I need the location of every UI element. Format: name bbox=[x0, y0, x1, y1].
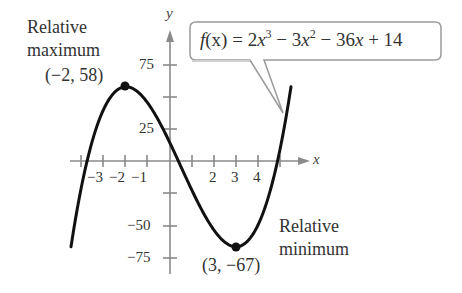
relative-minimum-point bbox=[232, 243, 241, 252]
y-tick-label: 75 bbox=[139, 56, 154, 73]
y-tick-label: 25 bbox=[139, 120, 154, 137]
eq-part: − 36 bbox=[316, 29, 355, 50]
relative-minimum-coordinates: (3, −67) bbox=[202, 256, 260, 275]
x-tick-label: −2 bbox=[109, 169, 125, 186]
relative-maximum-point bbox=[121, 82, 130, 91]
relative-maximum-label-line1: Relative bbox=[27, 18, 87, 37]
eq-part: + 14 bbox=[363, 29, 402, 50]
x-tick-label: −1 bbox=[131, 169, 147, 186]
x-tick-label: 4 bbox=[253, 169, 261, 186]
eq-part: − 3 bbox=[272, 29, 302, 50]
relative-minimum-label-line2: minimum bbox=[279, 240, 349, 259]
y-tick-label: −50 bbox=[127, 217, 150, 234]
eq-part: = 2 bbox=[227, 29, 257, 50]
relative-minimum-label-line1: Relative bbox=[279, 217, 339, 236]
eq-var: x bbox=[257, 29, 265, 50]
y-tick-label: −75 bbox=[127, 249, 150, 266]
relative-maximum-label-line2: maximum bbox=[27, 41, 100, 60]
x-tick-label: 3 bbox=[231, 169, 239, 186]
eq-var: x bbox=[301, 29, 309, 50]
x-tick-label: −3 bbox=[87, 169, 103, 186]
x-axis-arrow-icon bbox=[298, 157, 310, 165]
x-axis bbox=[70, 155, 300, 167]
eq-arg: (x) bbox=[205, 29, 227, 50]
y-axis-label: y bbox=[166, 5, 173, 22]
x-tick-label: 2 bbox=[209, 169, 217, 186]
y-axis-arrow-icon bbox=[166, 30, 174, 42]
function-equation: f(x) = 2x3 − 3x2 − 36x + 14 bbox=[200, 29, 403, 51]
relative-maximum-coordinates: (−2, 58) bbox=[45, 66, 103, 85]
x-axis-label: x bbox=[313, 151, 320, 168]
